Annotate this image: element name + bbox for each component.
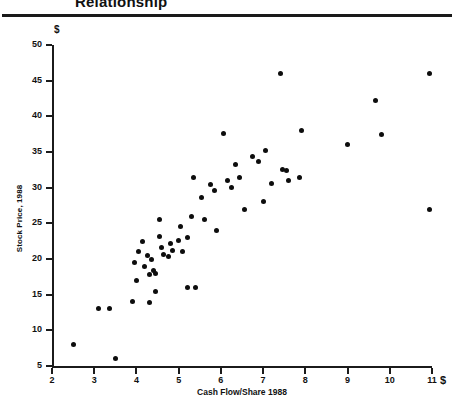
data-point	[212, 188, 217, 193]
data-point	[166, 254, 171, 259]
data-point	[256, 159, 261, 164]
y-tick-label: 5	[14, 360, 42, 370]
x-tick-label: 2	[42, 375, 62, 385]
data-point	[191, 175, 196, 180]
data-point	[278, 71, 283, 76]
y-tick-mark	[46, 329, 52, 331]
data-point	[345, 142, 350, 147]
data-point	[170, 248, 175, 253]
y-tick-label: 40	[14, 110, 42, 120]
y-axis-currency-symbol: $	[54, 24, 60, 35]
data-point	[136, 249, 141, 254]
x-tick-label: 10	[380, 375, 400, 385]
data-point	[427, 207, 432, 212]
x-tick-mark	[135, 368, 137, 374]
data-point	[189, 214, 194, 219]
data-point	[193, 285, 198, 290]
data-point	[229, 185, 234, 190]
data-point	[180, 249, 185, 254]
x-tick-label: 4	[126, 375, 146, 385]
data-point	[71, 342, 76, 347]
x-tick-label: 11	[422, 375, 442, 385]
x-tick-label: 7	[253, 375, 273, 385]
data-point	[113, 356, 118, 361]
x-tick-mark	[220, 368, 222, 374]
data-point	[299, 128, 304, 133]
y-tick-label: 50	[14, 39, 42, 49]
data-point	[250, 154, 255, 159]
data-point	[199, 195, 204, 200]
data-point	[185, 235, 190, 240]
data-point	[130, 299, 135, 304]
y-tick-mark	[46, 44, 52, 46]
data-point	[233, 162, 238, 167]
data-point	[132, 260, 137, 265]
data-point	[157, 217, 162, 222]
y-tick-label: 30	[14, 182, 42, 192]
data-point	[159, 245, 164, 250]
y-tick-label: 35	[14, 146, 42, 156]
x-axis-line	[52, 366, 432, 368]
y-tick-mark	[46, 187, 52, 189]
y-axis-line	[52, 45, 54, 368]
data-point	[153, 271, 158, 276]
x-tick-label: 9	[338, 375, 358, 385]
x-tick-label: 6	[211, 375, 231, 385]
y-tick-label: 20	[14, 253, 42, 263]
data-point	[269, 181, 274, 186]
data-point	[221, 131, 226, 136]
data-point	[107, 306, 112, 311]
data-point	[427, 71, 432, 76]
page-title: Relationship	[75, 0, 167, 10]
data-point	[157, 234, 162, 239]
data-point	[153, 289, 158, 294]
y-tick-mark	[46, 80, 52, 82]
chart-page: Relationship $ $ Stock Price, 1988 Cash …	[0, 0, 454, 399]
data-point	[379, 132, 384, 137]
y-tick-label: 25	[14, 217, 42, 227]
title-divider	[2, 14, 452, 17]
y-tick-mark	[46, 294, 52, 296]
x-tick-mark	[389, 368, 391, 374]
y-tick-mark	[46, 258, 52, 260]
x-tick-mark	[51, 368, 53, 374]
y-tick-label: 15	[14, 289, 42, 299]
data-point	[96, 306, 101, 311]
data-point	[373, 98, 378, 103]
y-tick-mark	[46, 115, 52, 117]
data-point	[237, 175, 242, 180]
data-point	[140, 239, 145, 244]
data-point	[263, 148, 268, 153]
y-tick-mark	[46, 365, 52, 367]
x-tick-label: 3	[84, 375, 104, 385]
data-point	[208, 182, 213, 187]
x-tick-mark	[262, 368, 264, 374]
data-point	[261, 199, 266, 204]
x-tick-mark	[431, 368, 433, 374]
data-point	[168, 241, 173, 246]
data-point	[142, 264, 147, 269]
data-point	[147, 272, 152, 277]
x-tick-mark	[304, 368, 306, 374]
data-point	[225, 178, 230, 183]
data-point	[185, 285, 190, 290]
y-tick-mark	[46, 151, 52, 153]
x-tick-label: 8	[295, 375, 315, 385]
data-point	[178, 224, 183, 229]
data-point	[176, 238, 181, 243]
x-tick-mark	[347, 368, 349, 374]
data-point	[284, 168, 289, 173]
data-point	[149, 257, 154, 262]
x-tick-mark	[93, 368, 95, 374]
data-point	[214, 228, 219, 233]
data-point	[242, 207, 247, 212]
x-tick-label: 5	[169, 375, 189, 385]
x-tick-mark	[178, 368, 180, 374]
data-point	[286, 178, 291, 183]
data-point	[134, 278, 139, 283]
data-point	[297, 175, 302, 180]
data-point	[147, 300, 152, 305]
y-tick-label: 45	[14, 75, 42, 85]
x-axis-title: Cash Flow/Share 1988	[52, 387, 432, 397]
data-point	[202, 217, 207, 222]
